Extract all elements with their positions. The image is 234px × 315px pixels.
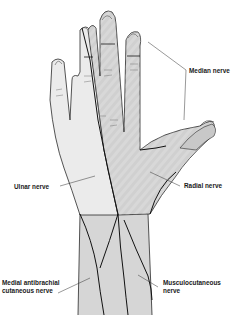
hand-nerve-diagram: [0, 0, 234, 315]
label-ulnar-nerve: Ulnar nerve: [14, 183, 49, 190]
label-radial-nerve: Radial nerve: [184, 182, 222, 189]
label-musculocutaneous-line1: Musculocutaneous: [163, 279, 221, 286]
forearm: [78, 214, 152, 315]
label-median-nerve: Median nerve: [189, 67, 230, 74]
label-medial-antibrachial-line1: Medial antibrachial: [2, 279, 60, 286]
label-musculocutaneous-line2: nerve: [163, 287, 180, 294]
label-medial-antibrachial-line2: cutaneous nerve: [2, 287, 53, 294]
